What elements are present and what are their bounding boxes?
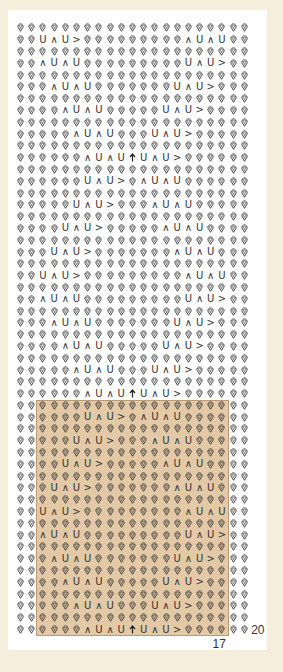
- knit-stitch-icon: [15, 140, 26, 152]
- knit-stitch-icon: [205, 352, 216, 364]
- decrease-caret-icon: ∧: [60, 529, 71, 541]
- knit-stitch-icon: [15, 164, 26, 176]
- knit-stitch-icon: [15, 529, 26, 541]
- knit-stitch-icon: [105, 494, 116, 506]
- knit-stitch-icon: [160, 282, 171, 294]
- chart-row: [15, 187, 250, 199]
- purl-u-icon: U: [71, 341, 82, 353]
- knit-stitch-icon: [172, 517, 183, 529]
- decrease-caret-icon: ∧: [60, 293, 71, 305]
- knit-stitch-icon: [49, 588, 60, 600]
- knit-stitch-icon: [138, 423, 149, 435]
- decrease-caret-icon: ∧: [172, 341, 183, 353]
- knit-stitch-icon: [37, 116, 48, 128]
- knit-stitch-icon: [105, 211, 116, 223]
- knit-stitch-icon: [160, 187, 171, 199]
- knit-stitch-icon: [149, 81, 160, 93]
- decrease-caret-icon: ∧: [60, 57, 71, 69]
- decrease-caret-icon: ∧: [82, 624, 93, 636]
- knit-stitch-icon: [116, 116, 127, 128]
- knit-stitch-icon: [149, 234, 160, 246]
- knit-stitch-icon: [93, 140, 104, 152]
- knit-stitch-icon: [160, 246, 171, 258]
- knit-stitch-icon: [160, 553, 171, 565]
- knit-stitch-icon: [138, 81, 149, 93]
- knit-stitch-icon: [172, 541, 183, 553]
- knit-stitch-icon: [149, 293, 160, 305]
- knit-stitch-icon: [228, 470, 239, 482]
- knit-stitch-icon: [49, 341, 60, 353]
- knit-stitch-icon: [205, 116, 216, 128]
- knit-stitch-icon: [138, 293, 149, 305]
- knit-stitch-icon: [228, 293, 239, 305]
- knit-stitch-icon: [183, 447, 194, 459]
- knit-stitch-icon: [239, 400, 250, 412]
- purl-u-icon: U: [160, 199, 171, 211]
- knit-stitch-icon: [149, 565, 160, 577]
- knit-stitch-icon: [82, 46, 93, 58]
- knit-stitch-icon: [15, 293, 26, 305]
- decrease-caret-icon: ∧: [183, 317, 194, 329]
- knit-stitch-icon: [37, 187, 48, 199]
- knit-stitch-icon: [138, 105, 149, 117]
- purl-u-icon: U: [183, 293, 194, 305]
- knit-stitch-icon: [37, 388, 48, 400]
- knit-stitch-icon: [138, 22, 149, 34]
- knit-stitch-icon: [15, 22, 26, 34]
- decrease-caret-icon: ∧: [82, 199, 93, 211]
- knit-stitch-icon: [37, 152, 48, 164]
- knit-stitch-icon: [205, 494, 216, 506]
- decrease-caret-icon: ∧: [49, 317, 60, 329]
- knit-stitch-icon: [228, 588, 239, 600]
- knit-stitch-icon: [127, 223, 138, 235]
- knit-stitch-icon: [26, 234, 37, 246]
- knit-stitch-icon: [116, 612, 127, 624]
- knit-stitch-icon: [116, 234, 127, 246]
- purl-u-icon: U: [71, 482, 82, 494]
- knit-stitch-icon: [127, 105, 138, 117]
- knit-stitch-icon: [172, 494, 183, 506]
- knit-stitch-icon: [239, 541, 250, 553]
- knit-stitch-icon: [194, 470, 205, 482]
- knit-stitch-icon: [26, 105, 37, 117]
- purl-u-icon: U: [105, 175, 116, 187]
- knit-stitch-icon: [26, 81, 37, 93]
- chart-row: U∧U>∧U∧U: [15, 482, 250, 494]
- knit-stitch-icon: [239, 494, 250, 506]
- chart-row: [15, 612, 250, 624]
- knit-stitch-icon: [194, 541, 205, 553]
- knit-stitch-icon: [37, 46, 48, 58]
- knit-stitch-icon: [71, 187, 82, 199]
- knit-stitch-icon: [26, 317, 37, 329]
- purl-u-icon: U: [49, 529, 60, 541]
- knit-stitch-icon: [26, 199, 37, 211]
- knit-stitch-icon: [138, 400, 149, 412]
- decrease-caret-icon: ∧: [149, 152, 160, 164]
- knit-stitch-icon: [228, 553, 239, 565]
- chart-row: U∧U>∧U∧U: [15, 435, 250, 447]
- knit-stitch-icon: [205, 517, 216, 529]
- right-arrow-stitch-icon: >: [71, 270, 82, 282]
- knit-stitch-icon: [82, 588, 93, 600]
- knit-stitch-icon: [71, 470, 82, 482]
- right-arrow-stitch-icon: >: [105, 435, 116, 447]
- knit-stitch-icon: [160, 541, 171, 553]
- decrease-caret-icon: ∧: [194, 57, 205, 69]
- chart-row: ∧U∧UU∧U>: [15, 293, 250, 305]
- knit-stitch-icon: [26, 364, 37, 376]
- knit-stitch-icon: [49, 517, 60, 529]
- knit-stitch-icon: [49, 447, 60, 459]
- decrease-caret-icon: ∧: [183, 223, 194, 235]
- knit-stitch-icon: [15, 282, 26, 294]
- right-arrow-stitch-icon: >: [172, 624, 183, 636]
- knit-stitch-icon: [138, 34, 149, 46]
- knit-stitch-icon: [71, 447, 82, 459]
- knit-stitch-icon: [127, 352, 138, 364]
- knit-stitch-icon: [26, 246, 37, 258]
- knit-stitch-icon: [93, 22, 104, 34]
- knit-stitch-icon: [239, 517, 250, 529]
- decrease-caret-icon: ∧: [82, 152, 93, 164]
- knit-stitch-icon: [82, 329, 93, 341]
- knit-stitch-icon: [127, 46, 138, 58]
- knit-stitch-icon: [149, 93, 160, 105]
